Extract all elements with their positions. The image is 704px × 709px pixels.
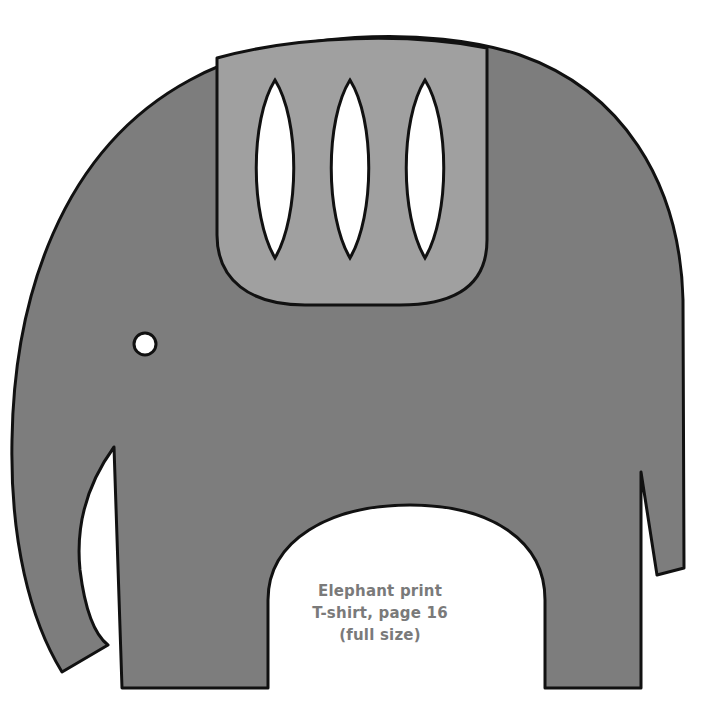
caption-line-2: T-shirt, page 16 — [280, 602, 480, 624]
caption-line-3: (full size) — [280, 624, 480, 646]
eye-cutout — [134, 333, 156, 355]
caption-line-1: Elephant print — [280, 580, 480, 602]
template-caption: Elephant print T-shirt, page 16 (full si… — [280, 580, 480, 646]
